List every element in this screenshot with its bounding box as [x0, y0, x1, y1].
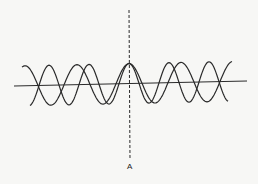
axis-label-a: A: [127, 162, 132, 171]
dashed-reference-line: [129, 10, 130, 160]
horizontal-axis: [14, 81, 247, 86]
wave-diagram: [0, 0, 258, 184]
